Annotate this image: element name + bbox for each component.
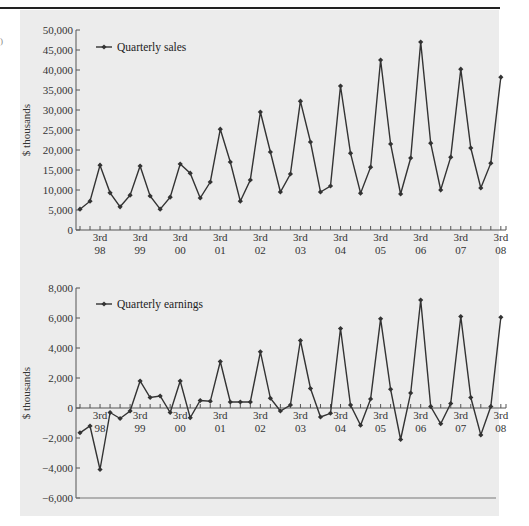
y-axis-title: $ thousands xyxy=(20,104,32,156)
x-tick-label-year: 05 xyxy=(375,244,387,256)
data-point-marker xyxy=(428,141,433,146)
legend: Quarterly earnings xyxy=(96,298,203,311)
x-tick-label-year: 99 xyxy=(135,422,147,434)
x-tick-label-quarter: 3rd xyxy=(494,409,509,421)
legend: Quarterly sales xyxy=(96,41,187,54)
data-point-marker xyxy=(97,467,102,472)
x-tick-label-quarter: 3rd xyxy=(253,409,268,421)
y-tick-label: 2,000 xyxy=(48,372,73,384)
y-tick-label: 20,000 xyxy=(43,144,74,156)
x-tick-label-quarter: 3rd xyxy=(253,231,268,243)
y-tick-label: 0 xyxy=(68,402,74,414)
data-point-marker xyxy=(408,390,413,395)
x-tick-label-quarter: 3rd xyxy=(453,231,468,243)
data-point-marker xyxy=(348,402,353,407)
x-tick-label-year: 00 xyxy=(175,422,187,434)
data-point-marker xyxy=(448,155,453,160)
x-tick-label-year: 04 xyxy=(335,244,347,256)
x-tick-label-quarter: 3rd xyxy=(173,231,188,243)
data-series-line xyxy=(80,42,501,209)
legend-label: Quarterly sales xyxy=(117,41,187,54)
y-tick-label: 30,000 xyxy=(43,104,74,116)
x-tick-label-quarter: 3rd xyxy=(173,409,188,421)
data-point-marker xyxy=(278,189,283,194)
data-point-marker xyxy=(248,177,253,182)
x-tick-label-year: 06 xyxy=(415,244,427,256)
x-tick-label-year: 02 xyxy=(255,422,266,434)
data-point-marker xyxy=(378,316,383,321)
x-tick-label-year: 03 xyxy=(295,422,307,434)
data-point-marker xyxy=(138,163,143,168)
x-tick-label-year: 04 xyxy=(335,422,347,434)
x-tick-label-year: 03 xyxy=(295,244,307,256)
y-tick-label: 10,000 xyxy=(43,184,74,196)
y-tick-label: 45,000 xyxy=(43,44,74,56)
data-point-marker xyxy=(478,185,483,190)
x-tick-label-year: 06 xyxy=(415,422,427,434)
x-tick-label-quarter: 3rd xyxy=(213,409,228,421)
data-point-marker xyxy=(438,187,443,192)
x-tick-label-quarter: 3rd xyxy=(494,231,509,243)
x-tick-label-quarter: 3rd xyxy=(293,409,308,421)
legend-label: Quarterly earnings xyxy=(117,298,203,311)
data-point-marker xyxy=(368,396,373,401)
x-tick-label-year: 99 xyxy=(135,244,147,256)
data-point-marker xyxy=(348,151,353,156)
charts-canvas: 05,00010,00015,00020,00025,00030,00035,0… xyxy=(0,0,529,526)
x-tick-label-quarter: 3rd xyxy=(293,231,308,243)
data-point-marker xyxy=(398,437,403,442)
data-point-marker xyxy=(388,141,393,146)
y-tick-label: 8,000 xyxy=(48,282,73,294)
data-point-marker xyxy=(418,39,423,44)
x-tick-label-quarter: 3rd xyxy=(373,409,388,421)
data-point-marker xyxy=(358,423,363,428)
x-tick-label-quarter: 3rd xyxy=(413,231,428,243)
data-point-marker xyxy=(228,399,233,404)
data-point-marker xyxy=(101,301,106,306)
data-point-marker xyxy=(208,399,213,404)
data-point-marker xyxy=(358,191,363,196)
data-point-marker xyxy=(308,386,313,391)
y-tick-label: 40,000 xyxy=(43,64,74,76)
data-point-marker xyxy=(101,44,106,49)
x-tick-label-quarter: 3rd xyxy=(333,409,348,421)
data-point-marker xyxy=(478,432,483,437)
data-point-marker xyxy=(468,145,473,150)
data-point-marker xyxy=(298,338,303,343)
x-tick-label-year: 98 xyxy=(95,244,107,256)
x-tick-label-year: 07 xyxy=(455,422,467,434)
x-tick-label-quarter: 3rd xyxy=(133,231,148,243)
y-axis-title: $ thousands xyxy=(20,367,32,419)
data-point-marker xyxy=(238,199,243,204)
y-tick-label: 15,000 xyxy=(43,164,74,176)
x-tick-label-quarter: 3rd xyxy=(453,409,468,421)
earnings-chart: −6,000−4,000−2,00002,0004,0006,0008,0003… xyxy=(20,282,509,504)
data-point-marker xyxy=(378,57,383,62)
x-tick-label-quarter: 3rd xyxy=(413,409,428,421)
data-point-marker xyxy=(238,399,243,404)
x-tick-label-year: 05 xyxy=(375,422,387,434)
x-tick-label-quarter: 3rd xyxy=(133,409,148,421)
y-tick-label: −6,000 xyxy=(42,492,73,504)
x-tick-label-quarter: 3rd xyxy=(93,409,108,421)
x-tick-label-year: 98 xyxy=(95,422,107,434)
y-tick-label: −4,000 xyxy=(42,462,73,474)
data-point-marker xyxy=(318,414,323,419)
data-point-marker xyxy=(498,75,503,80)
x-tick-label-quarter: 3rd xyxy=(333,231,348,243)
data-point-marker xyxy=(178,378,183,383)
y-tick-label: 25,000 xyxy=(43,124,74,136)
x-tick-label-year: 07 xyxy=(455,244,467,256)
x-tick-label-year: 08 xyxy=(495,244,507,256)
data-point-marker xyxy=(488,161,493,166)
data-point-marker xyxy=(498,315,503,320)
y-tick-label: −2,000 xyxy=(42,432,73,444)
data-point-marker xyxy=(408,155,413,160)
y-tick-label: 35,000 xyxy=(43,84,74,96)
data-point-marker xyxy=(398,191,403,196)
data-point-marker xyxy=(228,159,233,164)
x-tick-label-quarter: 3rd xyxy=(373,231,388,243)
x-tick-label-quarter: 3rd xyxy=(93,231,108,243)
data-point-marker xyxy=(298,99,303,104)
x-tick-label-year: 01 xyxy=(215,244,226,256)
